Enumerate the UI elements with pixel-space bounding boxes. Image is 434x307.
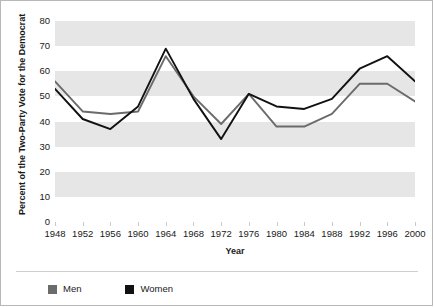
legend-swatch-icon [48,285,57,294]
x-axis-tick-mark [110,222,111,226]
x-axis-tick-label: 2000 [395,228,434,240]
y-axis-tick-label: 20 [4,167,50,177]
legend-label: Women [140,284,173,294]
y-axis-tick-label: 60 [4,66,50,76]
legend-swatch-icon [125,285,134,294]
series-line-women [55,49,415,139]
x-axis-tick-mark [55,222,56,226]
y-axis-title-wrapper: Percent of the Two-Party Vote for the De… [0,0,1,1]
x-axis-tick-labels: 1948195219561960196419681972197619801984… [55,228,415,242]
y-axis-tick-label: 80 [4,16,50,26]
x-axis-tick-mark [332,222,333,226]
x-axis-tick-mark [249,222,250,226]
x-axis-tick-mark [83,222,84,226]
x-axis-tick-mark [360,222,361,226]
x-axis-tick-mark [193,222,194,226]
y-axis-tick-label: 70 [4,41,50,51]
chart-legend: MenWomen [48,282,173,296]
y-axis-tick-label: 30 [4,142,50,152]
x-axis-title: Year [55,246,415,256]
legend-entry-women[interactable]: Women [125,284,173,294]
x-axis-tick-mark [387,222,388,226]
x-axis-tick-mark [415,222,416,226]
y-axis-tick-label: 40 [4,117,50,127]
y-axis-tick-label: 50 [4,91,50,101]
x-axis-tick-mark [166,222,167,226]
x-axis-tick-mark [304,222,305,226]
x-axis-tick-mark [221,222,222,226]
legend-divider [16,271,418,272]
x-axis-tick-mark [138,222,139,226]
x-axis-tick-mark [277,222,278,226]
y-axis-tick-label: 0 [4,217,50,227]
plot-area [55,21,415,222]
chart-figure: Percent of the Two-Party Vote for the De… [0,0,434,307]
y-axis-tick-label: 10 [4,192,50,202]
legend-entry-men[interactable]: Men [48,284,81,294]
legend-label: Men [63,284,81,294]
y-axis-tick-labels: 01020304050607080 [0,21,50,222]
series-lines [55,21,415,222]
